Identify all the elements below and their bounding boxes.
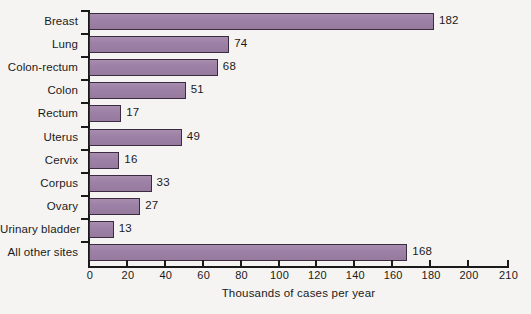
x-axis-tick-label: 180 xyxy=(411,269,451,281)
bar-value-label: 51 xyxy=(191,83,204,95)
bar xyxy=(89,13,434,30)
bar-shading xyxy=(90,106,120,121)
category-label: Urinary bladder xyxy=(0,223,78,237)
bar-shading xyxy=(90,222,113,237)
category-label-text: Uterus xyxy=(0,131,78,143)
bar-shading xyxy=(90,60,217,75)
category-label-text: Colon xyxy=(0,84,78,96)
category-tick xyxy=(81,79,90,81)
category-tick xyxy=(81,218,90,220)
category-tick xyxy=(81,33,90,35)
bar-shading xyxy=(90,37,228,52)
bar xyxy=(89,105,121,122)
category-tick xyxy=(81,56,90,58)
bar-value-label: 168 xyxy=(412,245,432,257)
x-axis-tick-label: 20 xyxy=(108,269,148,281)
category-label-text: Colon-rectum xyxy=(0,61,78,73)
bar-value-label: 27 xyxy=(145,199,158,211)
x-axis-tick xyxy=(164,260,166,267)
bar xyxy=(89,221,114,238)
x-axis-tick xyxy=(240,260,242,267)
bar-value-label: 17 xyxy=(126,106,139,118)
x-axis-tick-label: 40 xyxy=(146,269,186,281)
x-axis-tick-label: 210 xyxy=(489,269,529,281)
chart-figure: 182746851174916332713168 BreastLungColon… xyxy=(0,0,531,314)
bar xyxy=(89,244,407,261)
bar xyxy=(89,175,152,192)
category-label: Cervix xyxy=(0,154,78,168)
category-label-text: Corpus xyxy=(0,177,78,189)
category-label: Ovary xyxy=(0,200,78,214)
bar-value-label: 33 xyxy=(157,176,170,188)
category-label-text: Lung xyxy=(0,38,78,50)
category-label: Lung xyxy=(0,38,78,52)
category-label-text: All other sites xyxy=(0,246,78,258)
x-axis-tick-label: 200 xyxy=(449,269,489,281)
category-label-text: Ovary xyxy=(0,200,78,212)
x-axis-tick xyxy=(467,260,469,267)
bar-value-label: 16 xyxy=(124,153,137,165)
bar-shading xyxy=(90,83,185,98)
x-axis-tick-label: 140 xyxy=(335,269,375,281)
bar-shading xyxy=(90,130,181,145)
category-label: Rectum xyxy=(0,107,78,121)
x-axis-tick xyxy=(88,260,90,267)
category-label-text: Urinary bladder xyxy=(0,223,78,235)
category-label-text: Rectum xyxy=(0,107,78,119)
category-tick xyxy=(81,195,90,197)
bar xyxy=(89,198,140,215)
x-axis-tick-label: 100 xyxy=(260,269,300,281)
category-tick xyxy=(81,126,90,128)
category-label: Corpus xyxy=(0,177,78,191)
x-axis-tick xyxy=(391,260,393,267)
x-axis-line xyxy=(88,266,509,268)
bar-value-label: 49 xyxy=(187,130,200,142)
bar-value-label: 68 xyxy=(223,60,236,72)
category-tick xyxy=(81,10,90,12)
bar xyxy=(89,59,218,76)
bar-value-label: 13 xyxy=(119,222,132,234)
x-axis-tick xyxy=(353,260,355,267)
category-label-text: Cervix xyxy=(0,154,78,166)
x-axis-tick-label: 0 xyxy=(70,269,110,281)
category-label: Colon-rectum xyxy=(0,61,78,75)
x-axis-tick xyxy=(429,260,431,267)
bar-shading xyxy=(90,245,406,260)
category-label: Colon xyxy=(0,84,78,98)
category-label: Breast xyxy=(0,15,78,29)
x-axis-tick-label: 160 xyxy=(373,269,413,281)
x-axis-tick-label: 80 xyxy=(222,269,262,281)
bar-shading xyxy=(90,176,151,191)
x-axis-title: Thousands of cases per year xyxy=(88,287,509,299)
x-axis-tick xyxy=(315,260,317,267)
bar xyxy=(89,36,229,53)
bar-shading xyxy=(90,14,433,29)
category-tick xyxy=(81,102,90,104)
bar xyxy=(89,152,119,169)
category-label: Uterus xyxy=(0,131,78,145)
bar-value-label: 74 xyxy=(234,37,247,49)
x-axis-tick-label: 120 xyxy=(297,269,337,281)
category-label-text: Breast xyxy=(0,15,78,27)
bar-value-label: 182 xyxy=(439,14,459,26)
category-label: All other sites xyxy=(0,246,78,260)
x-axis-tick xyxy=(278,260,280,267)
x-axis-tick xyxy=(202,260,204,267)
x-axis-tick xyxy=(507,260,509,267)
x-axis-tick-label: 60 xyxy=(184,269,224,281)
x-axis-tick xyxy=(126,260,128,267)
category-tick xyxy=(81,241,90,243)
bar xyxy=(89,82,186,99)
bar-shading xyxy=(90,199,139,214)
category-tick xyxy=(81,172,90,174)
bar xyxy=(89,129,182,146)
category-tick xyxy=(81,149,90,151)
plot-area: 182746851174916332713168 BreastLungColon… xyxy=(0,0,531,314)
bar-shading xyxy=(90,153,118,168)
